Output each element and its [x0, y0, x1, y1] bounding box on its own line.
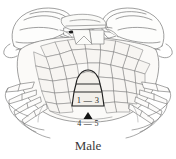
abdomen-segment-label-upper: 1 — 3 — [0, 95, 176, 105]
abdomen-segment-label-lower: 4 — 5 — [0, 119, 176, 128]
crab-figure: 1 — 3 4 — 5 Male — [0, 0, 176, 159]
crab-line-drawing — [0, 0, 176, 159]
figure-caption: Male — [0, 138, 176, 154]
eye-marker — [69, 31, 74, 34]
